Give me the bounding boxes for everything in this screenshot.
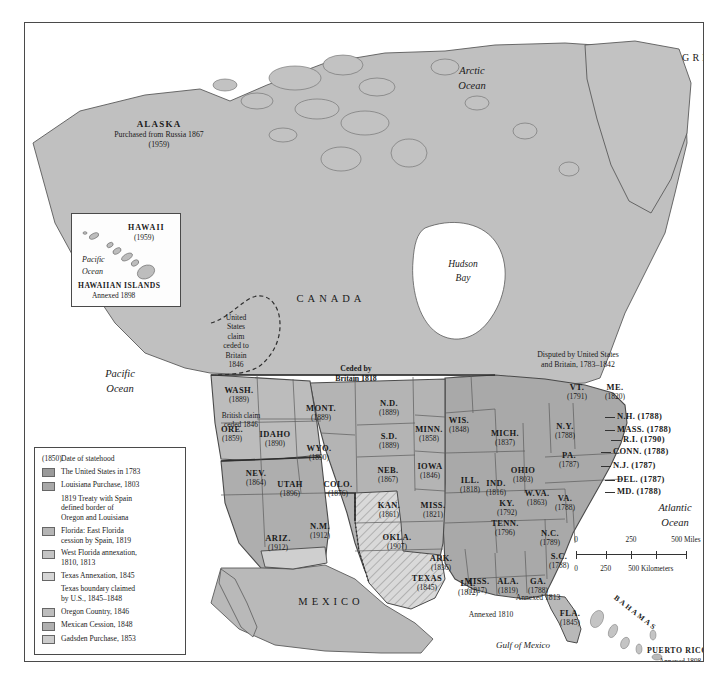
legend-label: 1819 Treaty with Spaindefined border ofO…	[61, 494, 132, 523]
state-name: MISS.	[421, 500, 446, 510]
map-legend: (1850) Date of statehood The United Stat…	[34, 447, 186, 655]
state-label-wyo: WYO.(1890)	[307, 444, 332, 462]
legend-swatch	[42, 468, 55, 477]
legend-label: Texas Annexation, 1845	[61, 571, 135, 581]
legend-label: West Florida annexation,1810, 1813	[61, 548, 137, 567]
state-year: (1836)	[430, 564, 453, 572]
state-name: NEV.	[246, 468, 267, 478]
legend-label: Louisiana Purchase, 1803	[61, 480, 139, 490]
state-name: VT.	[570, 382, 585, 392]
legend-label: Florida: East Floridacession by Spain, 1…	[61, 526, 131, 545]
state-name: WYO.	[307, 443, 332, 453]
state-name: TENN.	[491, 518, 519, 528]
state-name: ME.	[606, 382, 623, 392]
legend-header-row: (1850) Date of statehood	[42, 454, 179, 464]
state-name: N.M.	[310, 521, 330, 531]
state-year: (1848)	[449, 426, 469, 434]
state-name: OKLA.	[382, 532, 411, 542]
state-label-ind: IND.(1816)	[486, 479, 506, 497]
state-year: (1876)	[323, 490, 352, 498]
state-year: (1890)	[307, 454, 332, 462]
state-label-pa: PA.(1787)	[559, 451, 579, 469]
state-year: (1896)	[277, 490, 303, 498]
state-name: N.C.	[541, 528, 559, 538]
country-label-greenland: GREENLAND (Denmark)	[682, 47, 704, 83]
hawaii-year: (1959)	[134, 234, 154, 242]
state-name: COLO.	[323, 479, 352, 489]
state-year: (1859)	[221, 435, 243, 443]
state-label-wva: W.VA.(1863)	[524, 489, 549, 507]
state-year: (1845)	[560, 619, 581, 627]
state-year: (1890)	[260, 440, 291, 448]
state-year: (1819)	[497, 587, 519, 595]
legend-item: West Florida annexation,1810, 1813	[42, 548, 179, 567]
state-label-minn: MINN.(1858)	[415, 425, 443, 443]
state-name: KY.	[499, 498, 514, 508]
state-name: N.D.	[380, 398, 398, 408]
legend-swatch	[42, 550, 55, 559]
state-name: ALA.	[497, 576, 519, 586]
leader-line	[601, 466, 611, 467]
state-label-idaho: IDAHO(1890)	[260, 430, 291, 448]
state-year: (1816)	[486, 489, 506, 497]
state-label-va: VA.(1788)	[555, 494, 575, 512]
hawaii-ocean-label: PacificOcean	[82, 254, 105, 278]
scale-bar: 0 250 500 Miles 0 250 500 Kilometers	[576, 535, 686, 574]
scale-miles-labels: 0 250 500 Miles	[576, 535, 686, 545]
state-name: FLA.	[560, 608, 581, 618]
state-year: (1818)	[460, 486, 480, 494]
alaska-sub2: (1959)	[149, 140, 170, 149]
legend-swatch	[42, 608, 55, 617]
state-year: (1803)	[511, 476, 536, 484]
state-name: OHIO	[511, 465, 536, 475]
legend-label: Texas boundary claimedby U.S., 1845–1848	[61, 584, 135, 603]
legend-item: Gadsden Purchase, 1853	[42, 634, 179, 645]
state-name: VA.	[558, 493, 573, 503]
state-label-ore: ORE.(1859)	[221, 425, 243, 443]
state-name: IOWA	[417, 461, 442, 471]
state-name: ARK.	[430, 553, 453, 563]
state-label-nm: N.M.(1912)	[310, 522, 330, 540]
state-label-iowa: IOWA(1846)	[417, 462, 442, 480]
map-frame: ALASKA Purchased from Russia 1867 (1959)…	[24, 22, 704, 662]
state-year: (1789)	[540, 539, 560, 547]
hawaii-caption-sub: Annexed 1898	[92, 292, 135, 300]
ocean-label-gulf-of-mexico: Gulf of Mexico	[496, 640, 550, 650]
leader-line	[601, 452, 611, 453]
state-label-me: ME.(1820)	[605, 383, 625, 401]
annotation-disputed-us-britain: Disputed by United Statesand Britain, 17…	[537, 350, 619, 369]
legend-swatch	[42, 527, 55, 536]
ocean-label-hudson-bay: HudsonBay	[448, 258, 478, 286]
state-label-fla: FLA.(1845)	[560, 609, 581, 627]
legend-header-key: (1850)	[42, 454, 55, 463]
legend-swatch	[42, 635, 55, 644]
state-label-neb: NEB.(1867)	[377, 466, 398, 484]
state-label-utah: UTAH(1896)	[277, 480, 303, 498]
state-label-ky: KY.(1792)	[497, 499, 517, 517]
state-name: TEXAS	[412, 573, 442, 583]
state-year: (1812)	[458, 589, 478, 597]
state-label-nh: N.H. (1788)	[617, 412, 662, 422]
state-year: (1861)	[378, 511, 401, 519]
state-name: LA.	[460, 578, 475, 588]
annotation-annexed-1810: Annexed 1810	[469, 610, 514, 619]
legend-item: 1819 Treaty with Spaindefined border ofO…	[42, 494, 179, 523]
state-name: S.D.	[381, 431, 398, 441]
state-name: WASH.	[224, 385, 253, 395]
state-label-nc: N.C.(1789)	[540, 529, 560, 547]
ocean-label-atlantic: AtlanticOcean	[658, 500, 691, 530]
state-label-colo: COLO.(1876)	[323, 480, 352, 498]
state-name: MINN.	[415, 424, 443, 434]
scale-mi-2: 500 Miles	[671, 535, 700, 544]
alaska-sub1: Purchased from Russia 1867	[114, 130, 203, 139]
state-name: ILL.	[461, 475, 479, 485]
state-label-ohio: OHIO(1803)	[511, 466, 536, 484]
state-label-del: DEL. (1787)	[617, 475, 665, 485]
leader-line	[611, 440, 621, 441]
legend-label: The United States in 1783	[61, 467, 140, 477]
state-label-ill: ILL.(1818)	[460, 476, 480, 494]
annotation-ceded-by-britain-1818: Ceded byBritain 1818	[335, 364, 376, 383]
state-label-ri: R.I. (1790)	[623, 435, 665, 445]
scale-km-0: 0	[574, 564, 578, 573]
state-year: (1791)	[567, 393, 587, 401]
